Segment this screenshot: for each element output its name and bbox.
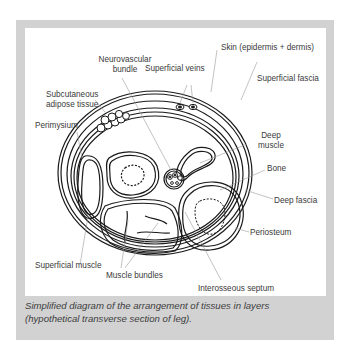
- label-deep-muscle-line1: Deep: [251, 131, 291, 141]
- label-subcutaneous-line2: adipose tissue: [46, 100, 98, 110]
- label-skin: Skin (epidermis + dermis): [221, 43, 314, 53]
- label-deep-fascia: Deep fascia: [274, 196, 317, 206]
- label-deep-muscle: Deep muscle: [251, 131, 291, 150]
- label-bone: Bone: [267, 164, 286, 174]
- figure-frame: Skin (epidermis + dermis) Neurovascular …: [16, 20, 334, 340]
- label-interosseous-septum: Interosseous septum: [198, 284, 274, 294]
- label-superficial-fascia: Superficial fascia: [257, 74, 319, 84]
- label-muscle-bundles: Muscle bundles: [106, 271, 163, 281]
- adipose-cluster: [97, 110, 129, 132]
- label-deep-muscle-line2: muscle: [251, 141, 291, 151]
- label-subcutaneous-line1: Subcutaneous: [46, 90, 98, 100]
- upper-muscle: [107, 152, 159, 198]
- upper-muscle-inner: [121, 165, 144, 185]
- caption-line1: Simplified diagram of the arrangement of…: [25, 299, 325, 312]
- diagram-panel: Skin (epidermis + dermis) Neurovascular …: [25, 28, 326, 296]
- label-subcutaneous-adipose: Subcutaneous adipose tissue: [46, 90, 98, 109]
- caption-line2: (hypothetical transverse section of leg)…: [25, 312, 325, 325]
- label-perimysium: Perimysium: [35, 121, 78, 131]
- figure-caption: Simplified diagram of the arrangement of…: [25, 299, 325, 325]
- label-superficial-muscle: Superficial muscle: [35, 261, 101, 271]
- label-periosteum: Periosteum: [250, 228, 291, 238]
- label-superficial-veins: Superficial veins: [145, 64, 205, 74]
